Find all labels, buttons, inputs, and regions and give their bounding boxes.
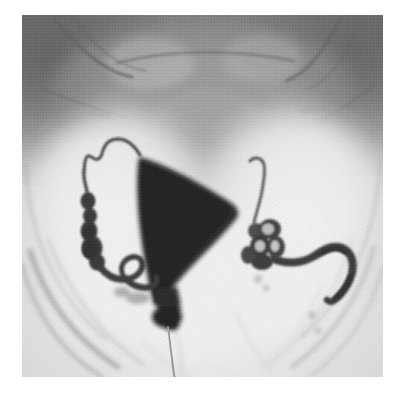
screenshot-root: Hysterosalpingogram X-ray anteroposterio… [0, 0, 397, 393]
radiograph-canvas [22, 15, 383, 377]
radiograph-plate [22, 15, 383, 377]
film-haze [22, 15, 383, 377]
